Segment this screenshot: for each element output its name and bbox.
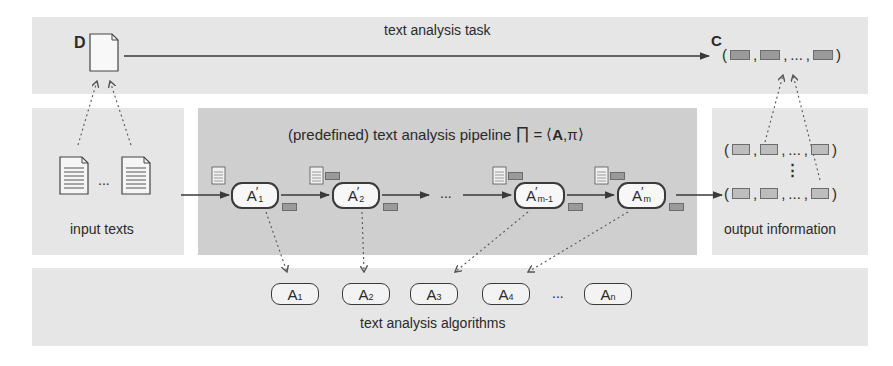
annotation-icon <box>730 50 750 60</box>
annotation-icon <box>760 144 778 155</box>
annotation-icon <box>811 188 829 199</box>
pipeline-ellipsis: ... <box>440 185 452 201</box>
algorithm-4[interactable]: A4 <box>482 283 530 305</box>
tuple-open: ( <box>722 46 727 63</box>
algorithm-n[interactable]: An <box>584 283 632 305</box>
pipeline-stage-2[interactable]: A′2 <box>332 182 380 209</box>
output-tuple-first: ( , , ... , ) <box>724 141 837 158</box>
annotation-icon <box>811 144 829 155</box>
annotation-icon <box>610 172 625 180</box>
algorithms-label: text analysis algorithms <box>360 315 506 331</box>
annotation-icon <box>568 203 583 211</box>
output-collection-symbol: C <box>711 32 722 49</box>
output-information-label: output information <box>724 221 836 237</box>
pipeline-stage-1[interactable]: A′1 <box>231 182 279 209</box>
output-tuple: ( , , ... , ) <box>722 46 841 63</box>
input-texts-label: input texts <box>70 221 134 237</box>
annotation-icon <box>760 50 780 60</box>
annotation-icon <box>669 203 684 211</box>
task-label: text analysis task <box>384 22 491 38</box>
algorithms-ellipsis: ... <box>552 285 564 301</box>
annotation-icon <box>282 203 297 211</box>
pipeline-formula: ⟨ A , π ⟩ <box>546 125 583 143</box>
annotation-icon <box>760 188 778 199</box>
annotation-icon <box>732 188 750 199</box>
pipeline-title: (predefined) text analysis pipeline ∏ = … <box>288 124 584 144</box>
pipeline-stage-m-1[interactable]: A′m-1 <box>514 182 565 209</box>
input-ellipsis: ... <box>98 172 110 188</box>
vertical-ellipsis: ⋮ <box>785 161 800 179</box>
annotation-icon <box>508 172 523 180</box>
input-collection-symbol: D <box>74 34 86 52</box>
annotation-icon <box>325 172 340 180</box>
algorithm-2[interactable]: A2 <box>342 283 390 305</box>
pipeline-stage-m[interactable]: A′m <box>617 182 666 209</box>
tuple-close: ) <box>836 46 841 63</box>
algorithm-1[interactable]: A1 <box>271 283 319 305</box>
annotation-icon <box>732 144 750 155</box>
output-tuple-last: ( , , ... , ) <box>724 185 837 202</box>
annotation-icon <box>813 50 833 60</box>
annotation-icon <box>383 203 398 211</box>
algorithm-3[interactable]: A3 <box>410 283 458 305</box>
